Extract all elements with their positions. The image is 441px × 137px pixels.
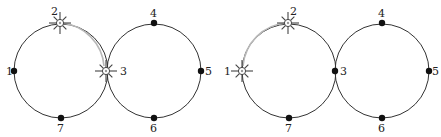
- node-label: 7: [57, 122, 64, 135]
- node-5: 5: [426, 65, 439, 78]
- node-4: 4: [378, 7, 385, 26]
- node-2: 2: [277, 5, 299, 34]
- node-label: 6: [378, 122, 385, 135]
- node-dot-icon: [379, 115, 385, 121]
- node-1: 1: [6, 65, 17, 78]
- node-label: 2: [290, 5, 297, 18]
- node-3: 3: [95, 60, 127, 82]
- node-7: 7: [285, 115, 292, 135]
- node-dot-icon: [198, 68, 204, 74]
- node-dot-icon: [379, 20, 385, 26]
- node-5: 5: [198, 65, 212, 78]
- figure-left: 1234567: [6, 5, 212, 135]
- node-dot-icon: [332, 68, 338, 74]
- node-dot-icon: [58, 115, 64, 121]
- node-3: 3: [332, 65, 347, 78]
- node-label: 5: [432, 65, 439, 78]
- node-label: 4: [150, 7, 157, 20]
- figure-right: 1234567: [224, 5, 439, 135]
- node-1: 1: [224, 60, 253, 82]
- ring-right: [335, 24, 429, 118]
- node-label: 2: [51, 5, 58, 18]
- node-6: 6: [378, 115, 385, 135]
- node-dot-icon: [151, 115, 157, 121]
- node-2: 2: [49, 5, 71, 34]
- node-label: 1: [6, 65, 13, 78]
- node-dot-icon: [151, 20, 157, 26]
- node-label: 1: [224, 65, 231, 78]
- node-label: 5: [205, 65, 212, 78]
- starburst-icon: [231, 60, 253, 82]
- node-6: 6: [150, 115, 157, 135]
- ring-left: [14, 24, 108, 118]
- node-7: 7: [57, 115, 64, 135]
- starburst-icon: [95, 60, 117, 82]
- node-dot-icon: [286, 115, 292, 121]
- graph-diagram: 1234567 1234567: [0, 0, 441, 137]
- node-label: 3: [120, 65, 127, 78]
- node-label: 7: [285, 122, 292, 135]
- node-label: 6: [150, 122, 157, 135]
- node-label: 4: [378, 7, 385, 20]
- move-path-2-to-1: [243, 23, 286, 66]
- node-4: 4: [150, 7, 157, 26]
- node-label: 3: [340, 65, 347, 78]
